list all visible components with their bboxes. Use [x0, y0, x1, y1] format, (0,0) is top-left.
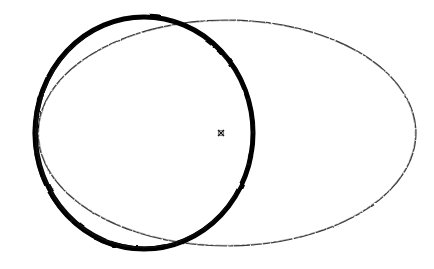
background-rect	[0, 0, 434, 269]
diagram-svg	[0, 0, 434, 269]
figure-canvas: Overlapping circle and ellipse outline d…	[0, 0, 434, 269]
